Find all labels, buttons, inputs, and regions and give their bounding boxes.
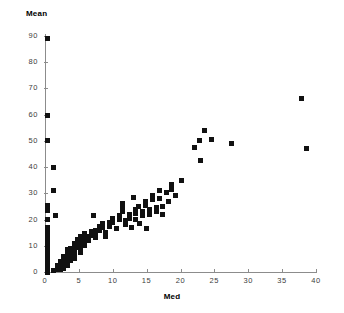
x-axis-tick	[79, 269, 80, 273]
data-point	[169, 187, 174, 192]
data-point	[127, 216, 132, 221]
data-point	[160, 204, 165, 209]
x-axis-tick-label: 5	[68, 276, 90, 285]
data-point	[114, 226, 119, 231]
y-axis-tick-label: 20	[16, 215, 38, 224]
data-point	[45, 217, 50, 222]
data-point	[154, 209, 159, 214]
data-point	[157, 188, 162, 193]
data-point	[120, 209, 125, 214]
data-point	[304, 146, 309, 151]
x-axis-tick-label: 15	[136, 276, 158, 285]
x-axis-tick-label: 40	[305, 276, 327, 285]
data-point	[45, 138, 50, 143]
data-point	[45, 113, 50, 118]
x-axis-tick	[282, 269, 283, 273]
data-point	[110, 220, 115, 225]
y-axis-tick-label: 60	[16, 110, 38, 119]
y-axis-tick-label: 50	[16, 136, 38, 145]
data-point	[198, 158, 203, 163]
data-point	[78, 250, 83, 255]
y-axis-tick-label: 0	[16, 267, 38, 276]
data-point	[144, 226, 149, 231]
data-point	[202, 128, 207, 133]
data-point	[173, 193, 178, 198]
data-point	[166, 199, 171, 204]
x-axis-tick-label: 30	[237, 276, 259, 285]
x-axis-tick-label: 25	[203, 276, 225, 285]
data-point	[157, 196, 162, 201]
y-axis-tick	[44, 88, 48, 89]
x-axis-tick	[214, 269, 215, 273]
x-axis-tick	[316, 269, 317, 273]
data-point	[45, 270, 50, 275]
y-axis-tick	[44, 193, 48, 194]
data-point	[72, 256, 77, 261]
scatter-chart: 01020304050607080900510152025303540 Mean…	[0, 0, 344, 313]
data-point	[197, 138, 202, 143]
y-axis-tick-label: 70	[16, 83, 38, 92]
data-point	[160, 212, 165, 217]
data-point	[123, 222, 128, 227]
data-point	[86, 238, 91, 243]
data-point	[140, 213, 145, 218]
y-axis-title: Mean	[26, 9, 47, 18]
data-point	[91, 213, 96, 218]
data-point	[179, 178, 184, 183]
y-axis-tick-label: 10	[16, 241, 38, 250]
y-axis-tick	[44, 62, 48, 63]
data-point	[133, 211, 138, 216]
x-axis-title: Med	[0, 292, 344, 301]
data-point	[209, 137, 214, 142]
data-point	[45, 203, 50, 208]
data-point	[45, 208, 50, 213]
data-point	[93, 235, 98, 240]
data-point	[51, 188, 56, 193]
data-point	[117, 217, 122, 222]
data-point	[147, 212, 152, 217]
data-point	[129, 225, 134, 230]
data-point	[299, 96, 304, 101]
y-axis-tick	[44, 167, 48, 168]
data-point	[150, 197, 155, 202]
y-axis-tick-label: 80	[16, 57, 38, 66]
x-axis-tick	[181, 269, 182, 273]
data-point	[131, 195, 136, 200]
x-axis-tick-label: 0	[34, 276, 56, 285]
data-point	[82, 243, 87, 248]
x-axis-tick	[248, 269, 249, 273]
x-axis-tick-label: 35	[271, 276, 293, 285]
data-point	[192, 145, 197, 150]
y-axis-tick-label: 90	[16, 31, 38, 40]
data-point	[136, 204, 141, 209]
data-point	[53, 213, 58, 218]
y-axis-tick-label: 40	[16, 162, 38, 171]
x-axis-tick	[113, 269, 114, 273]
x-axis-tick	[147, 269, 148, 273]
data-point	[51, 165, 56, 170]
data-point	[103, 234, 108, 239]
x-axis-tick-label: 20	[170, 276, 192, 285]
data-point	[169, 182, 174, 187]
data-point	[45, 36, 50, 41]
data-point	[229, 141, 234, 146]
plot-area: 01020304050607080900510152025303540	[0, 0, 344, 313]
y-axis-tick-label: 30	[16, 188, 38, 197]
data-point	[137, 221, 142, 226]
x-axis-tick-label: 10	[102, 276, 124, 285]
data-point	[65, 263, 70, 268]
